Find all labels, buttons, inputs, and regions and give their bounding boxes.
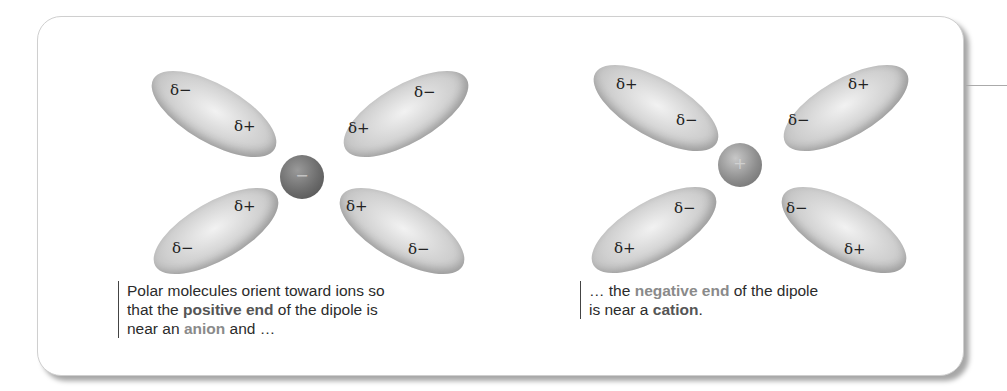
dipole-label: δ+ (234, 199, 256, 214)
caption-text: . (698, 301, 702, 318)
dipole-label: δ+ (848, 77, 870, 92)
caption-line: is near a cation. (589, 300, 849, 319)
cation-panel: δ+ δ− δ+ δ− + δ− δ+ δ− δ+ … the negative… (470, 17, 910, 377)
dipole-label: δ− (786, 201, 808, 216)
anion-sphere: − (280, 155, 324, 199)
ion-charge-sign: + (718, 143, 762, 187)
dipole-label: δ− (172, 241, 194, 256)
dipole-label: δ+ (348, 121, 370, 136)
cation-sphere: + (718, 143, 762, 187)
dipole-bottom-right (769, 170, 919, 290)
caption-text: that the (127, 301, 183, 318)
leader-line (966, 85, 1007, 86)
caption-text: … the (589, 282, 635, 299)
dipole-label: δ+ (844, 242, 866, 257)
dipole-top-left (581, 48, 731, 168)
caption-line: Polar molecules orient toward ions so (127, 281, 407, 300)
caption-text: is near a (589, 301, 653, 318)
caption-text: and … (225, 320, 275, 337)
dipole-label: δ+ (346, 199, 368, 214)
dipole-label: δ− (414, 85, 436, 100)
highlight-cation: cation (653, 301, 699, 318)
dipole-label: δ+ (616, 77, 638, 92)
dipole-label: δ− (676, 113, 698, 128)
dipole-top-left (139, 54, 289, 174)
dipole-bottom-left (579, 170, 729, 290)
dipole-label: δ+ (234, 119, 256, 134)
dipole-label: δ− (788, 113, 810, 128)
ion-charge-sign: − (280, 155, 324, 199)
anion-panel: δ− δ+ δ− δ+ − δ+ δ− δ+ δ− Polar molecule… (38, 17, 478, 377)
caption-line: that the positive end of the dipole is (127, 300, 407, 319)
caption-line: near an anion and … (127, 319, 407, 338)
dipole-top-right (771, 48, 921, 168)
dipole-top-right (331, 54, 481, 174)
dipole-bottom-left (141, 171, 291, 291)
highlight-anion: anion (184, 320, 225, 337)
figure-frame: δ− δ+ δ− δ+ − δ+ δ− δ+ δ− Polar molecule… (37, 16, 964, 376)
caption-line: … the negative end of the dipole (589, 281, 849, 300)
dipole-bottom-right (327, 171, 477, 291)
dipole-label: δ+ (614, 241, 636, 256)
dipole-label: δ− (674, 201, 696, 216)
highlight-positive-end: positive end (183, 301, 273, 318)
caption-text: of the dipole is (273, 301, 377, 318)
anion-caption: Polar molecules orient toward ions so th… (118, 281, 407, 338)
dipole-label: δ− (408, 242, 430, 257)
caption-text: near an (127, 320, 184, 337)
cation-caption: … the negative end of the dipole is near… (580, 281, 849, 319)
dipole-label: δ− (170, 83, 192, 98)
caption-text: of the dipole (729, 282, 818, 299)
highlight-negative-end: negative end (635, 282, 730, 299)
